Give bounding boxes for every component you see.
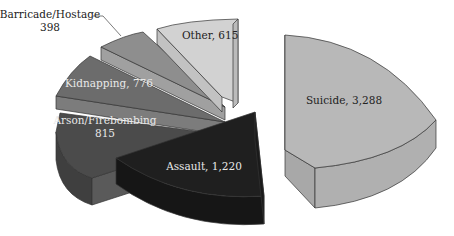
- label-arson-firebombing: Arson/Firebombing: [52, 114, 156, 126]
- pie-chart: Barricade/Hostage 398 Other, 615 Suicide…: [0, 0, 454, 236]
- slice-suicide: [285, 35, 436, 208]
- label-barricade-hostage-value: 398: [40, 21, 60, 33]
- label-suicide: Suicide, 3,288: [306, 94, 382, 106]
- label-kidnapping: Kidnapping, 776: [65, 77, 153, 89]
- label-barricade-hostage: Barricade/Hostage: [0, 8, 100, 20]
- label-arson-firebombing-value: 815: [95, 127, 115, 139]
- label-other: Other, 615: [182, 29, 238, 41]
- label-assault: Assault, 1,220: [165, 160, 242, 172]
